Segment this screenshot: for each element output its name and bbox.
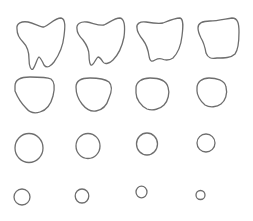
circle-shape-14	[75, 189, 89, 203]
rounded-circle-shape-8	[197, 78, 227, 107]
circle-shape-10	[76, 134, 100, 159]
circle-shape-15	[136, 186, 147, 198]
rounded-triangle-shape-6	[76, 78, 111, 111]
circle-shape-11	[137, 133, 158, 155]
circle-shape-9	[15, 134, 43, 163]
circle-shape-12	[197, 134, 215, 152]
shape-morph-figure	[0, 0, 253, 221]
rounded-circle-shape-7	[136, 78, 169, 110]
tooth-shape-3	[137, 18, 183, 61]
tooth-shape-1	[17, 18, 65, 69]
circle-shape-13	[14, 189, 30, 205]
tooth-shape-2	[77, 18, 125, 65]
blob-shape-4	[198, 18, 239, 58]
circle-shape-16	[196, 191, 205, 200]
shape-grid	[0, 0, 253, 221]
rounded-triangle-shape-5	[15, 77, 54, 113]
